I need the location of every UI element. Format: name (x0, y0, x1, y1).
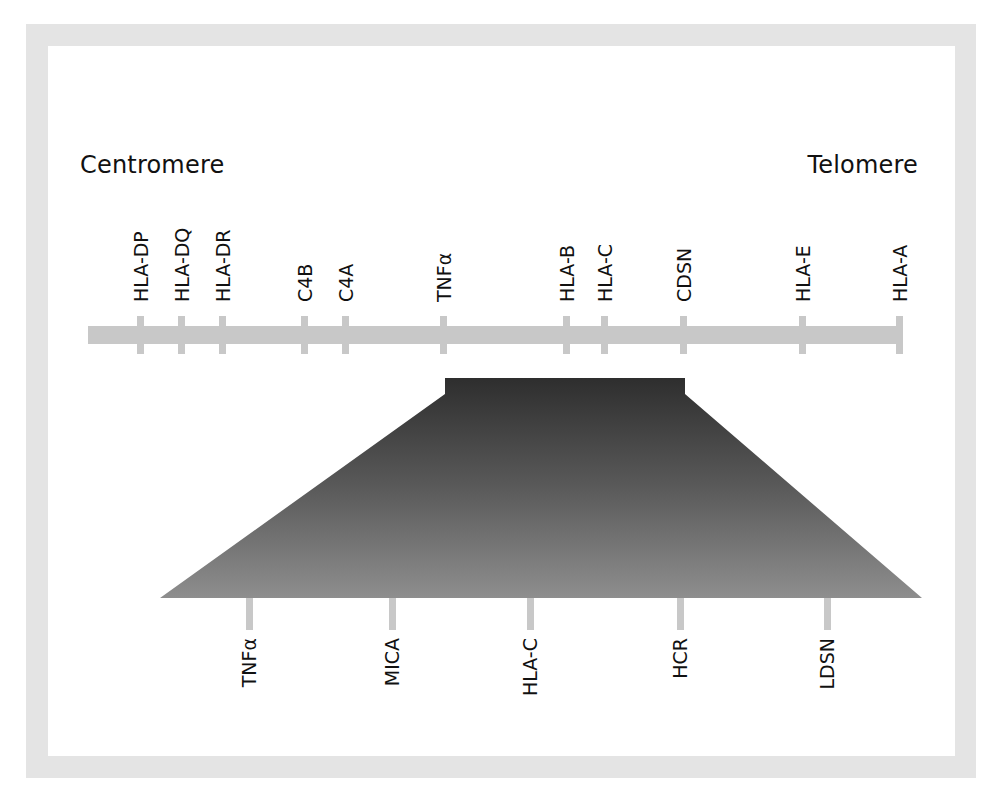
zoomed-gene-tick (246, 598, 253, 630)
zoomed-gene-tick (527, 598, 534, 630)
zoomed-gene-tick (389, 598, 396, 630)
zoomed-gene-tick (824, 598, 831, 630)
zoomed-gene-label: MICA (382, 638, 402, 686)
zoomed-gene-tick (677, 598, 684, 630)
zoomed-region-shape (0, 0, 1002, 794)
zoomed-gene-label: TNFα (239, 638, 259, 687)
zoomed-gene-label: HLA-C (520, 638, 540, 696)
zoomed-gene-label: HCR (670, 638, 690, 679)
zoomed-gene-label: LDSN (817, 638, 837, 690)
